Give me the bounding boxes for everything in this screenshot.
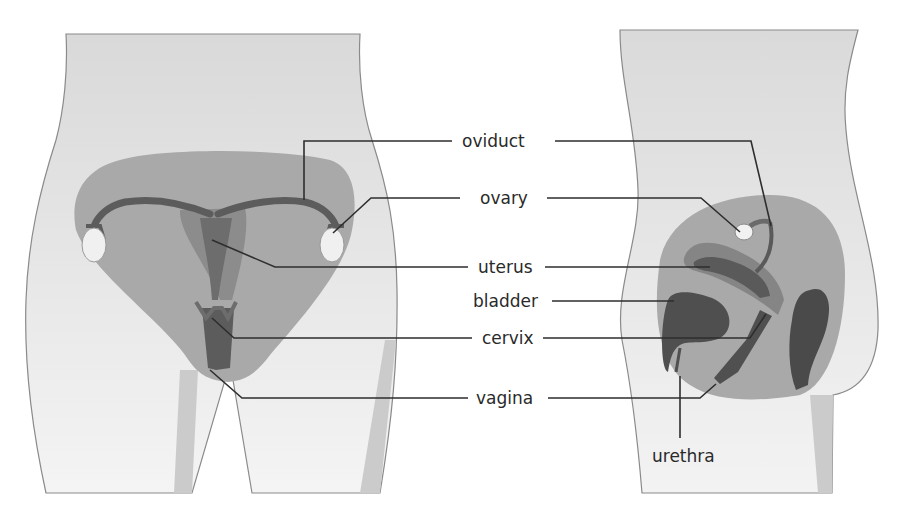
side-view: [620, 30, 878, 493]
front-ovary-right: [320, 228, 344, 262]
label-vagina: vagina: [476, 388, 533, 408]
label-cervix: cervix: [482, 328, 534, 348]
front-view: [26, 34, 397, 493]
label-bladder: bladder: [473, 291, 538, 311]
label-urethra: urethra: [652, 446, 715, 466]
label-oviduct: oviduct: [462, 131, 525, 151]
label-ovary: ovary: [480, 188, 528, 208]
reproductive-system-diagram: oviduct ovary uterus bladder cervix vagi…: [0, 0, 900, 516]
label-uterus: uterus: [478, 257, 533, 277]
front-ovary-left: [82, 228, 106, 262]
